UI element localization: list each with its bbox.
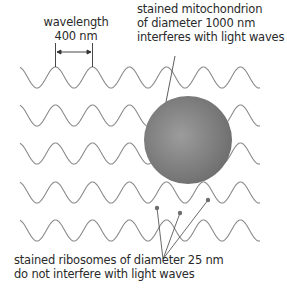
ribosome-label-line2: do not interfere with light waves xyxy=(14,267,224,281)
light-wave-4 xyxy=(20,182,260,203)
ribosome-label: stained ribosomes of diameter 25 nm do n… xyxy=(14,253,224,281)
ribosome-label-line1: stained ribosomes of diameter 25 nm xyxy=(14,253,224,267)
mitochondrion-label-line1: stained mitochondrion xyxy=(137,2,284,16)
wavelength-label: wavelength 400 nm xyxy=(40,15,112,43)
mitochondrion-circle xyxy=(144,96,232,184)
ribosome-dot-1 xyxy=(155,206,159,210)
mitochondrion-pointer-line xyxy=(166,56,175,102)
arrow-left-icon xyxy=(57,50,61,54)
ribosome-dot-2 xyxy=(178,211,182,215)
wavelength-label-line1: wavelength xyxy=(40,15,112,29)
light-wave-1 xyxy=(20,67,260,88)
wavelength-marker xyxy=(56,43,93,67)
wavelength-label-line2: 400 nm xyxy=(40,29,112,43)
mitochondrion-label-line2: of diameter 1000 nm xyxy=(137,16,284,30)
ribosome-dot-3 xyxy=(206,198,210,202)
light-wave-5 xyxy=(20,220,260,241)
mitochondrion-label-line3: interferes with light waves xyxy=(137,30,284,44)
ribosome-pointer-line-1 xyxy=(157,208,163,259)
ribosome-pointer-line-3 xyxy=(163,200,208,259)
ribosome-dots xyxy=(155,198,210,215)
ribosome-pointer-lines xyxy=(157,200,208,259)
arrow-right-icon xyxy=(87,50,91,54)
mitochondrion-label: stained mitochondrion of diameter 1000 n… xyxy=(137,2,284,44)
